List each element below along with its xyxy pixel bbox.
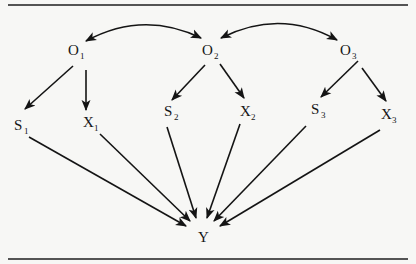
edge-x3-y (220, 130, 380, 226)
node-x3-label: X (381, 106, 392, 122)
node-y-label: Y (198, 229, 209, 245)
node-x1-label: X (83, 114, 94, 130)
node-x2-subscript: 2 (251, 112, 256, 122)
edge-o3-s3 (321, 61, 358, 97)
node-o2: O 2 (202, 42, 219, 61)
edge-s3-y (214, 126, 306, 221)
node-o3-subscript: 3 (352, 51, 357, 61)
node-o2-subscript: 2 (214, 51, 219, 61)
correlation-o2-o3 (221, 23, 337, 40)
edge-o2-s2 (172, 65, 205, 100)
diagram-svg: O 1 O 2 O 3 S 1 X 1 S 2 X 2 S 3 X 3 Y (0, 0, 416, 264)
edge-s1-y (29, 137, 186, 226)
node-x2: X 2 (240, 103, 256, 122)
node-s1-label: S (14, 117, 22, 133)
node-o2-label: O (202, 42, 213, 58)
node-x1-subscript: 1 (94, 123, 99, 133)
node-s3-subscript: 3 (321, 110, 326, 120)
node-o1: O 1 (68, 42, 85, 61)
node-s2-label: S (164, 103, 172, 119)
edge-s2-y (167, 127, 196, 218)
node-o3: O 3 (340, 42, 357, 61)
edge-o3-x3 (362, 68, 386, 101)
node-o3-label: O (340, 42, 351, 58)
node-x3: X 3 (381, 106, 397, 125)
node-x3-subscript: 3 (392, 115, 397, 125)
edge-x1-y (100, 134, 190, 221)
node-y: Y (198, 229, 209, 245)
edge-o2-x2 (220, 64, 244, 98)
node-s2: S 2 (164, 103, 179, 122)
path-diagram: O 1 O 2 O 3 S 1 X 1 S 2 X 2 S 3 X 3 Y (0, 0, 416, 264)
node-s1: S 1 (14, 117, 29, 136)
node-s3: S 3 (311, 101, 326, 120)
node-s3-label: S (311, 101, 319, 117)
edge-o1-s1 (25, 66, 73, 109)
node-s1-subscript: 1 (24, 126, 29, 136)
edge-x2-y (207, 124, 240, 218)
node-x2-label: X (240, 103, 251, 119)
node-x1: X 1 (83, 114, 99, 133)
node-o1-subscript: 1 (80, 51, 85, 61)
correlation-o1-o2 (86, 25, 201, 41)
node-s2-subscript: 2 (174, 112, 179, 122)
node-o1-label: O (68, 42, 79, 58)
